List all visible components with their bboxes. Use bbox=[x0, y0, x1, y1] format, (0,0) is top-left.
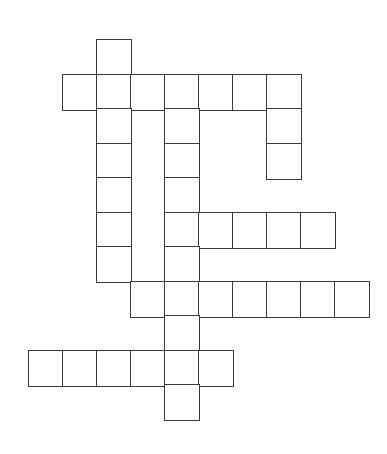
crossword-cell[interactable] bbox=[164, 350, 200, 387]
crossword-cell[interactable] bbox=[198, 74, 234, 111]
crossword-cell[interactable] bbox=[266, 212, 302, 249]
crossword-cell[interactable] bbox=[28, 350, 64, 387]
crossword-cell[interactable] bbox=[164, 74, 200, 111]
crossword-cell[interactable] bbox=[96, 143, 132, 180]
crossword-cell[interactable] bbox=[300, 212, 336, 249]
crossword-cell[interactable] bbox=[96, 212, 132, 249]
crossword-cell[interactable] bbox=[164, 246, 200, 283]
crossword-cell[interactable] bbox=[164, 212, 200, 249]
crossword-cell[interactable] bbox=[266, 143, 302, 180]
crossword-cell[interactable] bbox=[96, 177, 132, 214]
crossword-cell[interactable] bbox=[266, 108, 302, 145]
crossword-cell[interactable] bbox=[130, 74, 166, 111]
crossword-cell[interactable] bbox=[334, 281, 370, 318]
crossword-cell[interactable] bbox=[96, 108, 132, 145]
crossword-cell[interactable] bbox=[232, 281, 268, 318]
crossword-cell[interactable] bbox=[130, 350, 166, 387]
crossword-cell[interactable] bbox=[266, 281, 302, 318]
crossword-cell[interactable] bbox=[266, 74, 302, 111]
crossword-cell[interactable] bbox=[96, 350, 132, 387]
crossword-cell[interactable] bbox=[164, 108, 200, 145]
crossword-cell[interactable] bbox=[164, 143, 200, 180]
crossword-cell[interactable] bbox=[130, 281, 166, 318]
crossword-cell[interactable] bbox=[198, 281, 234, 318]
crossword-grid bbox=[0, 0, 387, 454]
crossword-cell[interactable] bbox=[96, 39, 132, 76]
crossword-cell[interactable] bbox=[164, 384, 200, 421]
crossword-cell[interactable] bbox=[62, 74, 98, 111]
crossword-cell[interactable] bbox=[198, 350, 234, 387]
crossword-cell[interactable] bbox=[232, 212, 268, 249]
crossword-cell[interactable] bbox=[300, 281, 336, 318]
crossword-cell[interactable] bbox=[96, 74, 132, 111]
crossword-cell[interactable] bbox=[164, 281, 200, 318]
crossword-cell[interactable] bbox=[198, 212, 234, 249]
crossword-cell[interactable] bbox=[62, 350, 98, 387]
crossword-cell[interactable] bbox=[164, 315, 200, 352]
crossword-cell[interactable] bbox=[164, 177, 200, 214]
crossword-cell[interactable] bbox=[96, 246, 132, 283]
crossword-cell[interactable] bbox=[232, 74, 268, 111]
